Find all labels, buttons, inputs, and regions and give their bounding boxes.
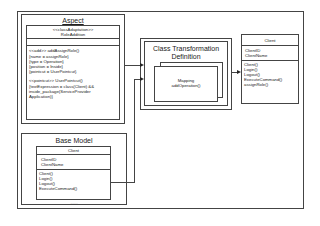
result-attr-client-name: ClientName (245, 53, 295, 58)
result-client-name: Client (242, 35, 298, 45)
aspect-package: Aspect <<classAdaptation>> RoleAddition … (21, 14, 125, 124)
connector-base-v (134, 79, 135, 183)
operations-compartment: <<add>> addAssignRole() {name = assignRo… (27, 45, 119, 99)
connector-aspect (125, 65, 141, 66)
result-op-assign-role: assignRole() (244, 82, 296, 87)
mapping-operation: addOperation() (155, 83, 217, 88)
result-attributes: ClientID ClientName (242, 45, 298, 59)
result-operations: Client() Login() Logout() ExecuteCommand… (242, 60, 298, 89)
base-model-package: Base Model Client ClientID ClientName Cl… (21, 133, 127, 205)
arrow-result-icon (237, 70, 241, 74)
role-addition-class: <<classAdaptation>> RoleAddition <<add>>… (26, 25, 120, 120)
result-client-class: Client ClientID ClientName Client() Logi… (241, 34, 299, 104)
base-client-name: Client (37, 147, 110, 154)
transformation-title-1: Class Transformation (145, 45, 227, 53)
pointcut-line-3: Application)} (29, 94, 117, 99)
transformation-title-2: Definition (145, 53, 227, 61)
class-name: RoleAddition (27, 32, 119, 37)
op-execute-command: ExecuteCommand() (39, 186, 108, 191)
base-operations: Client() Login() Logout() ExecuteCommand… (37, 169, 110, 193)
mapping-box: Mapping addOperation() (154, 66, 218, 102)
base-model-title: Base Model (22, 137, 126, 145)
connector-base-h1 (110, 182, 134, 183)
base-client-class: Client ClientID ClientName Client() Logi… (36, 146, 111, 200)
arrow-base-icon (140, 77, 144, 81)
arrow-aspect-icon (140, 63, 144, 67)
base-attributes: ClientID ClientName (37, 154, 110, 168)
ellipsis: ...... (22, 200, 126, 205)
attributes-compartment (27, 38, 119, 45)
aspect-title: Aspect (22, 17, 124, 25)
attr-client-name: ClientName (41, 162, 106, 167)
